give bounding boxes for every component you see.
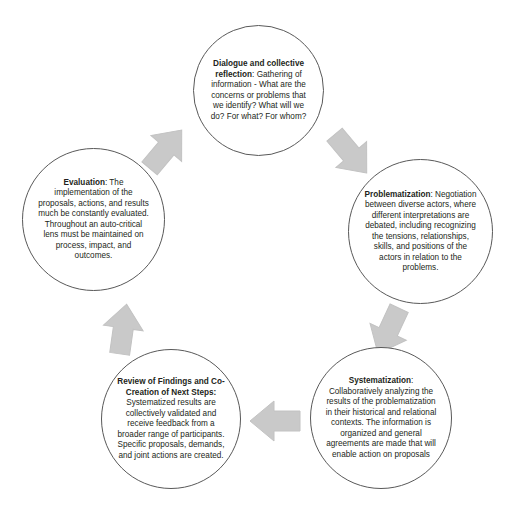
cycle-node-problematization-body: Negotiation between diverse actors, wher… bbox=[365, 190, 477, 273]
cycle-node-problematization-title: Problematization bbox=[365, 190, 431, 199]
arrow-review-to-evaluation-icon bbox=[91, 298, 155, 362]
cycle-node-dialogue: Dialogue and collective reflection: Gath… bbox=[193, 25, 324, 156]
cycle-node-systematization: Systematization: Collaboratively analyzi… bbox=[310, 347, 452, 489]
cycle-node-review-title: Review of Findings and Co-Creation of Ne… bbox=[117, 377, 224, 397]
arrow-dialogue-to-problematization-icon bbox=[318, 121, 382, 185]
arrow-systematization-to-review-icon bbox=[244, 389, 308, 453]
cycle-node-problematization: Problematization: Negotiation between di… bbox=[348, 159, 493, 304]
cycle-node-review-text: Review of Findings and Co-Creation of Ne… bbox=[109, 377, 233, 461]
cycle-node-systematization-text: Systematization: Collaboratively analyzi… bbox=[319, 376, 443, 460]
cycle-node-review-body: Systematized results are collectively va… bbox=[118, 398, 225, 460]
cycle-node-systematization-body: Collaboratively analyzing the results of… bbox=[326, 387, 437, 459]
cycle-node-problematization-text: Problematization: Negotiation between di… bbox=[358, 190, 484, 274]
cycle-node-evaluation-text: Evaluation: The implementation of the pr… bbox=[31, 178, 156, 262]
cycle-node-systematization-separator: : bbox=[411, 376, 413, 385]
cycle-node-dialogue-text: Dialogue and collective reflection: Gath… bbox=[202, 59, 315, 122]
cycle-node-review: Review of Findings and Co-Creation of Ne… bbox=[101, 349, 241, 489]
cycle-node-evaluation: Evaluation: The implementation of the pr… bbox=[22, 148, 165, 291]
cycle-node-evaluation-title: Evaluation bbox=[64, 178, 105, 187]
cycle-diagram: Dialogue and collective reflection: Gath… bbox=[0, 0, 516, 517]
cycle-node-evaluation-body: The implementation of the proposals, act… bbox=[38, 178, 149, 261]
cycle-node-systematization-title: Systematization bbox=[349, 376, 411, 385]
